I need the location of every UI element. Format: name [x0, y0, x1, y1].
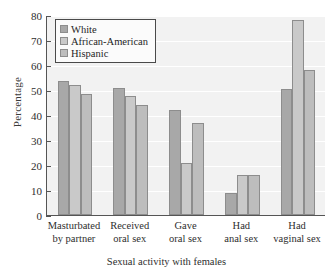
- bar: [192, 123, 204, 216]
- y-axis-tick: [46, 216, 51, 217]
- y-axis-tick-label: 10: [16, 185, 42, 197]
- y-axis-tick-label: 60: [16, 60, 42, 72]
- y-axis-tick: [46, 166, 51, 167]
- legend-item: White: [60, 23, 148, 35]
- bar: [248, 175, 260, 215]
- bar: [81, 94, 93, 215]
- bar: [225, 193, 237, 216]
- y-axis-tick-label: 50: [16, 85, 42, 97]
- y-axis-tick: [46, 141, 51, 142]
- y-axis-tick-label: 70: [16, 35, 42, 47]
- y-axis-tick: [46, 191, 51, 192]
- legend-label: White: [71, 24, 97, 35]
- bar-chart: Percentage 01020304050607080 Masturbated…: [0, 0, 333, 277]
- x-axis-title: Sexual activity with females: [0, 256, 333, 267]
- bar: [58, 81, 70, 215]
- y-axis-tick: [46, 41, 51, 42]
- bar: [281, 89, 293, 215]
- y-axis-tick-label: 40: [16, 110, 42, 122]
- bar: [292, 20, 304, 215]
- y-axis-tick-label: 20: [16, 160, 42, 172]
- bar: [304, 70, 316, 215]
- legend-label: African-American: [71, 36, 148, 47]
- legend-swatch-icon: [60, 25, 68, 33]
- legend-item: African-American: [60, 35, 148, 47]
- legend-item: Hispanic: [60, 47, 148, 59]
- legend-swatch-icon: [60, 49, 68, 57]
- legend: WhiteAfrican-AmericanHispanic: [55, 19, 156, 63]
- y-axis-tick-label: 30: [16, 135, 42, 147]
- y-axis-tick-label: 80: [16, 10, 42, 22]
- y-axis-tick: [46, 91, 51, 92]
- y-axis-tick: [46, 66, 51, 67]
- legend-label: Hispanic: [71, 48, 108, 59]
- bar: [69, 85, 81, 215]
- x-axis-tick-label: Hadvaginal sex: [252, 220, 333, 245]
- bar: [136, 105, 148, 215]
- y-axis-tick: [46, 16, 51, 17]
- x-axis-tick-label-line: vaginal sex: [252, 233, 333, 246]
- bar: [169, 110, 181, 215]
- bar: [125, 96, 137, 215]
- legend-swatch-icon: [60, 37, 68, 45]
- bar: [237, 175, 249, 215]
- bar: [181, 163, 193, 216]
- x-axis-tick-label-line: Had: [252, 220, 333, 233]
- y-axis-tick: [46, 116, 51, 117]
- bar: [113, 88, 125, 216]
